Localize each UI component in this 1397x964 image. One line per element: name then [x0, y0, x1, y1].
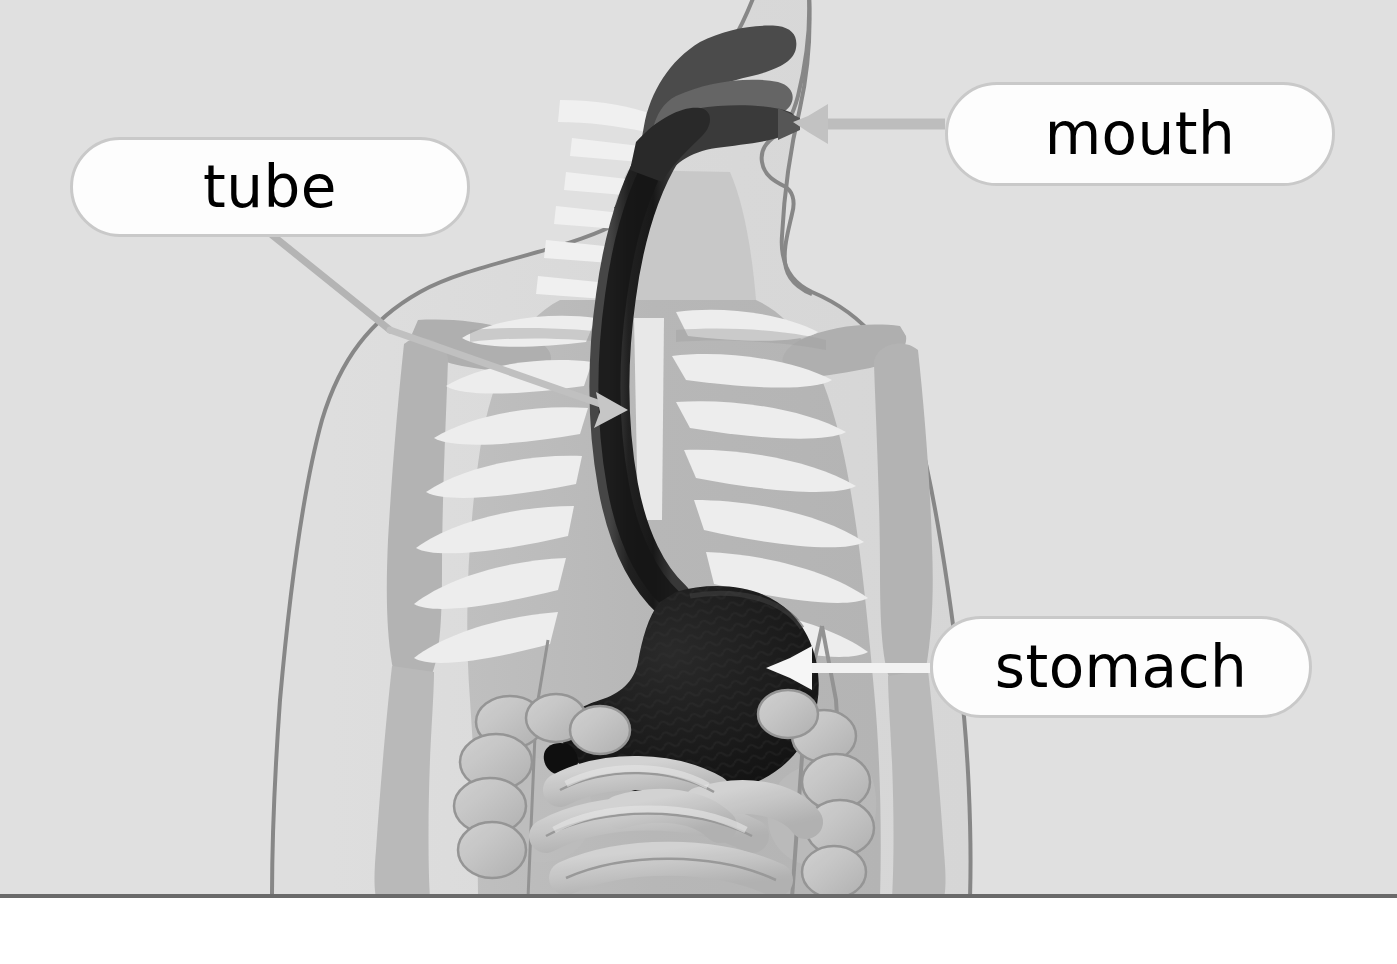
- illustration-plate: tube mouth stomach: [0, 0, 1397, 898]
- label-callout-mouth[interactable]: mouth: [945, 82, 1335, 186]
- figure-stage: tube mouth stomach: [0, 0, 1397, 964]
- page-bottom-margin: [0, 898, 1397, 964]
- label-text-mouth: mouth: [1045, 105, 1236, 163]
- label-callout-stomach[interactable]: stomach: [930, 616, 1312, 718]
- label-text-tube: tube: [203, 158, 337, 216]
- label-callout-tube[interactable]: tube: [70, 137, 470, 237]
- label-text-stomach: stomach: [995, 638, 1248, 696]
